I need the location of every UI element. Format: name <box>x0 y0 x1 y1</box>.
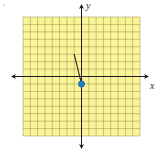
coordinate-grid <box>0 0 159 153</box>
x-axis-label: x <box>150 81 154 91</box>
plotted-point <box>78 81 84 87</box>
y-axis-label: y <box>86 1 90 11</box>
corner-mark <box>3 4 5 6</box>
coordinate-plane-figure: y x <box>0 0 159 153</box>
